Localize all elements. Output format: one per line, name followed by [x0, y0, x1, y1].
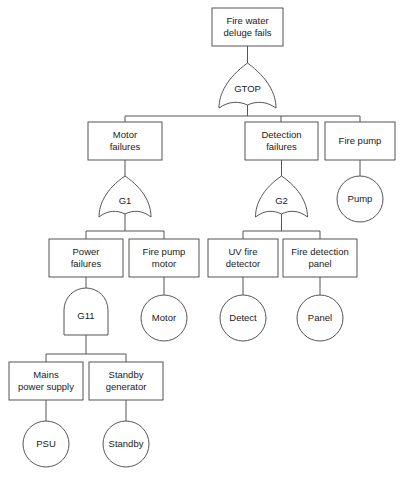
- gate-g11[interactable]: G11: [64, 288, 108, 335]
- event-standby[interactable]: Standby: [103, 421, 149, 467]
- fire-detection-panel-label-line1: Fire detection: [291, 246, 349, 257]
- event-panel-label: Panel: [308, 312, 332, 323]
- fault-tree-diagram: Fire water deluge fails GTOP Motor failu…: [0, 0, 402, 482]
- mains-power-supply-label-line2: power supply: [18, 381, 74, 392]
- event-pump-label: Pump: [348, 193, 373, 204]
- fire-pump-motor-label-line2: motor: [152, 258, 176, 269]
- detection-failures-label-line2: failures: [266, 141, 297, 152]
- event-standby-label: Standby: [109, 438, 144, 449]
- gate-g1-label: G1: [119, 195, 132, 206]
- power-failures-label-line2: failures: [71, 258, 102, 269]
- gate-gtop-label: GTOP: [234, 83, 261, 94]
- node-fire-pump-motor[interactable]: Fire pump motor: [129, 239, 199, 277]
- fire-pump-label-line1: Fire pump: [339, 135, 382, 146]
- node-motor-failures[interactable]: Motor failures: [88, 122, 162, 160]
- node-power-failures[interactable]: Power failures: [49, 239, 123, 277]
- event-panel[interactable]: Panel: [297, 295, 343, 341]
- power-failures-label-line1: Power: [73, 246, 100, 257]
- top-event-label-line2: deluge fails: [223, 27, 271, 38]
- gate-g2[interactable]: G2: [256, 176, 308, 217]
- fire-pump-motor-label-line1: Fire pump: [143, 246, 186, 257]
- motor-failures-label-line2: failures: [110, 141, 141, 152]
- standby-generator-label-line1: Standby: [109, 369, 144, 380]
- standby-generator-label-line2: generator: [106, 381, 147, 392]
- uv-fire-detector-label-line2: detector: [226, 258, 260, 269]
- event-motor[interactable]: Motor: [141, 295, 187, 341]
- detection-failures-label-line1: Detection: [261, 129, 301, 140]
- event-detect-label: Detect: [229, 312, 257, 323]
- event-pump[interactable]: Pump: [337, 176, 383, 222]
- node-mains-power-supply[interactable]: Mains power supply: [9, 362, 83, 400]
- gate-g2-label: G2: [275, 195, 288, 206]
- mains-power-supply-label-line1: Mains: [33, 369, 59, 380]
- fire-detection-panel-label-line2: panel: [308, 258, 331, 269]
- event-psu-label: PSU: [36, 438, 56, 449]
- node-detection-failures[interactable]: Detection failures: [245, 122, 318, 160]
- node-top-event[interactable]: Fire water deluge fails: [212, 8, 283, 46]
- event-psu[interactable]: PSU: [23, 421, 69, 467]
- node-standby-generator[interactable]: Standby generator: [89, 362, 163, 400]
- gate-g1[interactable]: G1: [99, 176, 151, 217]
- node-fire-detection-panel[interactable]: Fire detection panel: [283, 239, 357, 277]
- top-event-label-line1: Fire water: [226, 15, 268, 26]
- event-motor-label: Motor: [152, 312, 176, 323]
- uv-fire-detector-label-line1: UV fire: [228, 246, 257, 257]
- gate-gtop[interactable]: GTOP: [219, 63, 276, 108]
- fault-tree-canvas: Fire water deluge fails GTOP Motor failu…: [0, 0, 402, 482]
- node-uv-fire-detector[interactable]: UV fire detector: [208, 239, 278, 277]
- motor-failures-label-line1: Motor: [113, 129, 137, 140]
- gate-g11-label: G11: [77, 310, 94, 321]
- event-detect[interactable]: Detect: [220, 295, 266, 341]
- node-fire-pump[interactable]: Fire pump: [325, 122, 395, 160]
